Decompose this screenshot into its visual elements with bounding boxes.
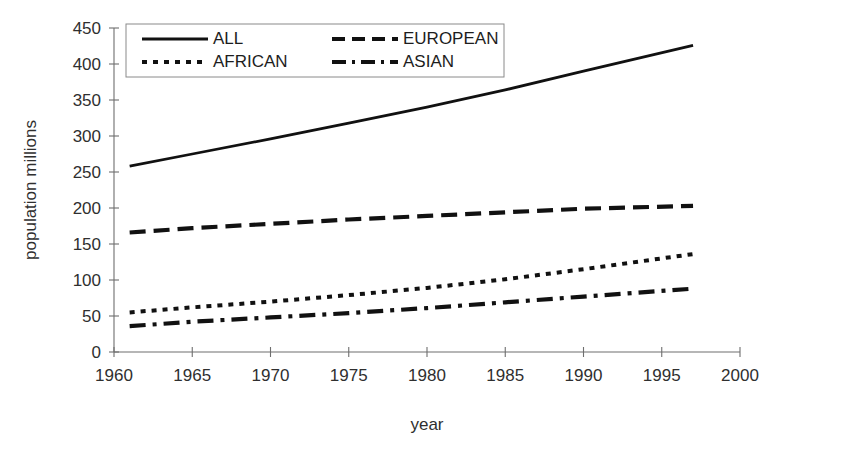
line-chart: 050100150200250300350400450 196019651970… — [0, 0, 843, 453]
series-group — [130, 45, 693, 326]
y-tick-label: 400 — [73, 55, 101, 74]
x-tick-label: 1985 — [486, 366, 524, 385]
y-tick-group: 050100150200250300350400450 — [73, 19, 119, 362]
legend-label-asian: ASIAN — [403, 52, 454, 71]
y-tick-label: 50 — [82, 307, 101, 326]
legend: ALLEUROPEANAFRICANASIAN — [126, 24, 504, 77]
y-tick-label: 300 — [73, 127, 101, 146]
series-line-african — [130, 254, 693, 312]
y-tick-label: 0 — [92, 343, 101, 362]
chart-container: 050100150200250300350400450 196019651970… — [0, 0, 843, 453]
y-axis-title: population millions — [21, 120, 40, 260]
legend-label-african: AFRICAN — [213, 52, 288, 71]
legend-label-european: EUROPEAN — [403, 29, 498, 48]
x-tick-label: 1990 — [565, 366, 603, 385]
y-tick-label: 350 — [73, 91, 101, 110]
y-tick-label: 450 — [73, 19, 101, 38]
x-tick-label: 1965 — [173, 366, 211, 385]
x-tick-label: 1960 — [95, 366, 133, 385]
y-tick-label: 250 — [73, 163, 101, 182]
x-axis-title: year — [410, 415, 443, 434]
series-line-european — [130, 206, 693, 233]
x-tick-label: 1980 — [408, 366, 446, 385]
x-tick-label: 1975 — [330, 366, 368, 385]
x-tick-label: 1995 — [643, 366, 681, 385]
x-tick-group: 196019651970197519801985199019952000 — [95, 347, 759, 385]
legend-label-all: ALL — [213, 29, 243, 48]
y-tick-label: 150 — [73, 235, 101, 254]
y-tick-label: 200 — [73, 199, 101, 218]
x-tick-label: 2000 — [721, 366, 759, 385]
series-line-asian — [130, 289, 693, 326]
x-tick-label: 1970 — [252, 366, 290, 385]
y-tick-label: 100 — [73, 271, 101, 290]
